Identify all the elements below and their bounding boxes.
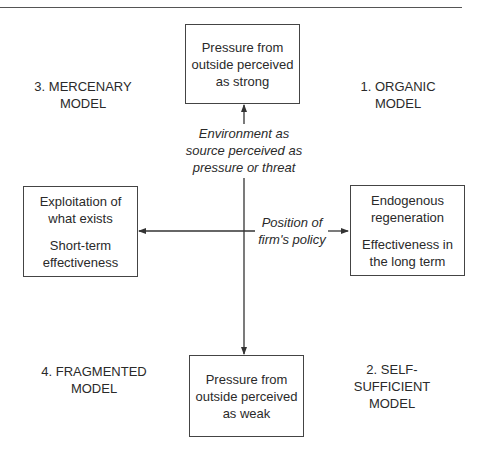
box-regeneration: Endogenous regeneration Effectiveness in… [350, 185, 465, 276]
box-line: Pressure from [202, 39, 284, 56]
box-line: outside perceived [192, 56, 294, 73]
box-pressure-strong: Pressure from outside perceived as stron… [185, 24, 300, 104]
quadrant-fragmented: 4. FRAGMENTED MODEL [36, 363, 152, 397]
box-exploitation: Exploitation of what exists Short-term e… [23, 186, 138, 277]
box-line: as strong [216, 73, 269, 90]
vertical-axis-label: Environment as source perceived as press… [168, 125, 320, 176]
quadrant-self-sufficient: 2. SELF-SUFFICIENT MODEL [330, 361, 454, 412]
box-pressure-weak: Pressure from outside perceived as weak [189, 355, 304, 437]
quadrant-organic: 1. ORGANIC MODEL [340, 78, 456, 112]
quadrant-mercenary: 3. MERCENARY MODEL [18, 78, 148, 112]
horizontal-axis-label: Position of firm's policy [252, 214, 332, 248]
